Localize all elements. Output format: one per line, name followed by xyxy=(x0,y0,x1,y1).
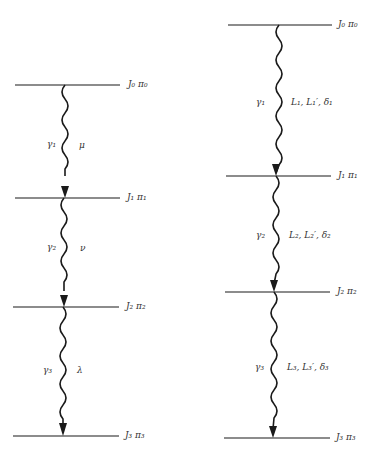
left-gamma-2-label: γ₂ xyxy=(47,243,56,252)
left-level-3-label: J₃ π₃ xyxy=(125,431,145,440)
right-level-1-label: J₁ π₁ xyxy=(338,171,358,180)
right-gamma-2-label: γ₂ xyxy=(256,231,265,240)
left-gamma-1-arrowhead xyxy=(61,186,69,198)
right-gamma-1-arrowhead xyxy=(272,164,280,176)
left-gamma-1-wave xyxy=(62,85,68,176)
left-gamma-3-wave xyxy=(60,307,66,431)
right-gamma-3-label: γ₃ xyxy=(255,363,264,372)
right-level-3-label: J₃ π₃ xyxy=(336,433,356,442)
right-level-0-label: J₀ π₀ xyxy=(338,20,358,29)
right-gamma-1-param: L₁, L₁′, δ₁ xyxy=(291,98,333,107)
left-gamma-3-arrowhead xyxy=(59,423,67,436)
right-gamma-2-arrowhead xyxy=(270,280,278,292)
gamma-cascade-diagram xyxy=(0,0,374,456)
left-gamma-2-param: ν xyxy=(80,244,85,253)
left-gamma-3-label: γ₃ xyxy=(43,366,52,375)
left-gamma-1-label: γ₁ xyxy=(47,140,56,149)
right-gamma-1-wave xyxy=(276,25,282,173)
left-gamma-1-param: μ xyxy=(79,141,85,150)
right-gamma-3-wave xyxy=(271,292,277,429)
left-level-1-label: J₁ π₁ xyxy=(127,193,147,202)
right-gamma-1-label: γ₁ xyxy=(256,98,265,107)
left-gamma-2-arrowhead xyxy=(60,295,68,307)
right-level-2-label: J₂ π₂ xyxy=(337,287,357,296)
right-gamma-3-param: L₃, L₃′, δ₃ xyxy=(287,363,329,372)
left-level-2-label: J₂ π₂ xyxy=(126,302,146,311)
left-gamma-2-wave xyxy=(61,198,67,291)
right-gamma-2-param: L₂, L₂′, δ₂ xyxy=(289,231,331,240)
right-gamma-2-wave xyxy=(273,176,279,284)
right-gamma-3-arrowhead xyxy=(269,426,277,438)
left-gamma-3-param: λ xyxy=(77,366,83,375)
left-level-0-label: J₀ π₀ xyxy=(128,80,148,89)
